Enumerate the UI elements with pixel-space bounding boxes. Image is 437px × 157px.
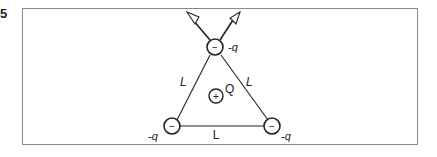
arrow-right-shaft [220,20,233,40]
charge-bottom-right: − -q [264,118,292,142]
charge-bottom-left-label: -q [148,130,159,142]
charge-bottom-right-label: -q [281,130,292,142]
charge-center-sign: + [213,91,219,102]
triangle-charge-diagram: − -q − -q − -q + Q L L L [0,0,437,157]
charge-top-sign: − [212,42,218,53]
force-arrows [193,20,233,40]
charge-bottom-left-sign: − [169,121,175,132]
charge-top: − -q [207,39,239,55]
charge-center-label: Q [225,82,234,96]
arrow-left-head-icon [187,12,199,24]
charge-bottom-left: − -q [148,118,180,142]
charge-top-label: -q [228,41,239,53]
side-left-label: L [180,75,187,89]
side-bottom-label: L [213,128,220,142]
side-right-label: L [246,75,253,89]
charge-center: + Q [209,82,234,103]
charge-bottom-right-sign: − [269,121,275,132]
